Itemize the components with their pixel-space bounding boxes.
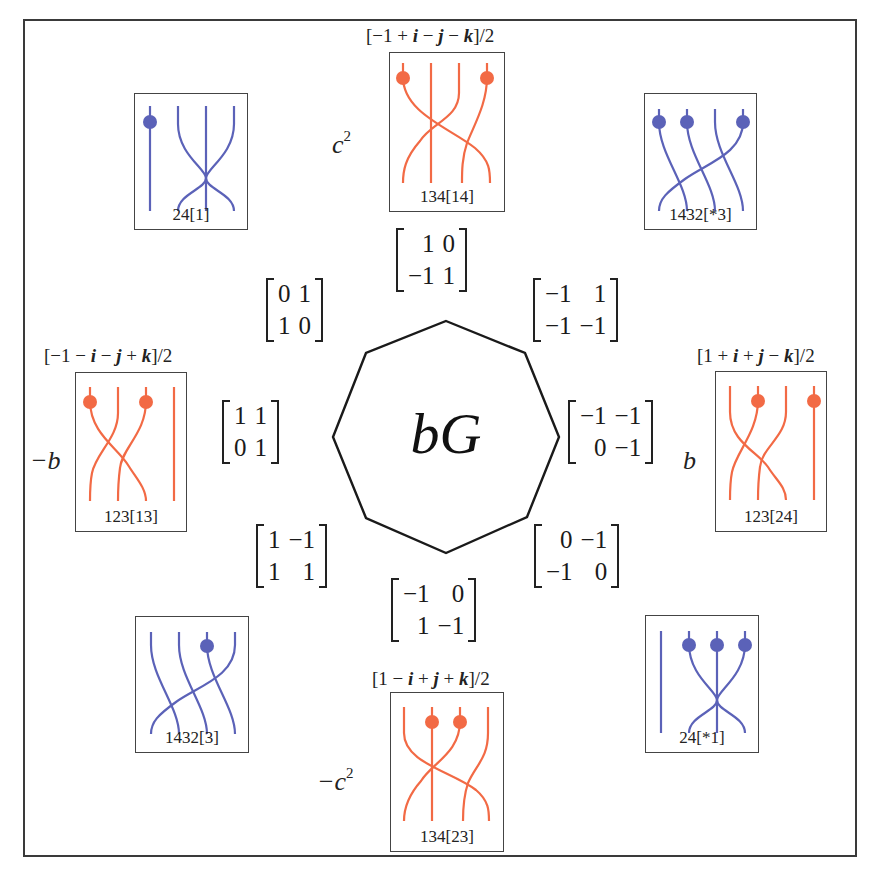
matrix-cell: 1 (251, 432, 272, 464)
matrix-cell: −1 (576, 310, 611, 342)
braid-box-bottom-right: 24[*1] (645, 615, 759, 753)
braid-box-top-left: 24[1] (134, 93, 248, 230)
matrix-cell: −1 (611, 432, 646, 464)
matrix-cell: −1 (434, 610, 469, 642)
matrix-cell: −1 (576, 400, 611, 432)
braid-label-left: 123[13] (76, 507, 186, 527)
side-label-bottom: −c2 (317, 765, 354, 797)
matrix-cell: 1 (439, 260, 460, 292)
matrix-cell: 1 (399, 610, 434, 642)
braid-label-top: 134[14] (390, 187, 504, 207)
braid-box-top-right: 1432[*3] (644, 93, 757, 230)
braid-box-top: 134[14] (389, 52, 505, 212)
matrix-cell: 0 (295, 310, 316, 342)
matrix-upper-left: 01 10 (266, 278, 323, 342)
matrix-left: 11 01 (222, 400, 279, 464)
matrix-lower-right: 0−1 −10 (534, 524, 619, 588)
quaternion-right: [1 + i + j − k]/2 (697, 345, 815, 367)
matrix-cell: 1 (264, 556, 285, 588)
matrix-cell: 1 (576, 278, 611, 310)
matrix-lower-left: 1−1 11 (256, 524, 327, 588)
quaternion-left: [−1 − i − j + k]/2 (44, 345, 172, 367)
braid-box-bottom-left: 1432[3] (135, 616, 249, 753)
matrix-cell: 1 (251, 400, 272, 432)
side-label-top: c2 (332, 128, 351, 160)
matrix-cell: 0 (434, 578, 469, 610)
matrix-cell: 0 (439, 228, 460, 260)
matrix-cell: 1 (274, 310, 295, 342)
braid-box-right: 123[24] (715, 371, 827, 532)
matrix-cell: 1 (230, 400, 251, 432)
matrix-cell: −1 (285, 524, 320, 556)
matrix-cell: −1 (541, 278, 576, 310)
matrix-cell: −1 (404, 260, 439, 292)
matrix-cell: 0 (230, 432, 251, 464)
braid-label-top-right: 1432[*3] (645, 205, 756, 225)
side-label-right: b (683, 446, 696, 476)
matrix-upper-right: −11 −1−1 (533, 278, 618, 342)
quaternion-bottom: [1 − i + j + k]/2 (372, 668, 490, 690)
matrix-cell: 0 (542, 524, 577, 556)
matrix-cell: 1 (295, 278, 316, 310)
braid-label-right: 123[24] (716, 507, 826, 527)
matrix-cell: 0 (274, 278, 295, 310)
matrix-cell: −1 (399, 578, 434, 610)
braid-label-bottom: 134[23] (391, 827, 503, 847)
matrix-cell: −1 (577, 524, 612, 556)
matrix-bottom: −10 1−1 (391, 578, 476, 642)
matrix-cell: −1 (541, 310, 576, 342)
braid-label-top-left: 24[1] (135, 205, 247, 225)
matrix-cell: 0 (576, 432, 611, 464)
matrix-cell: 1 (285, 556, 320, 588)
braid-box-left: 123[13] (75, 372, 187, 532)
matrix-top: 10 −11 (396, 228, 467, 292)
matrix-cell: 0 (577, 556, 612, 588)
matrix-cell: 1 (264, 524, 285, 556)
braid-box-bottom: 134[23] (390, 692, 504, 852)
matrix-cell: −1 (542, 556, 577, 588)
matrix-cell: 1 (404, 228, 439, 260)
braid-label-bottom-right: 24[*1] (646, 728, 758, 748)
center-label-bG: bG (376, 400, 516, 467)
braid-label-bottom-left: 1432[3] (136, 728, 248, 748)
side-label-left: −b (30, 446, 61, 476)
matrix-right: −1−1 0−1 (568, 400, 653, 464)
matrix-cell: −1 (611, 400, 646, 432)
quaternion-top: [−1 + i − j − k]/2 (366, 25, 494, 47)
